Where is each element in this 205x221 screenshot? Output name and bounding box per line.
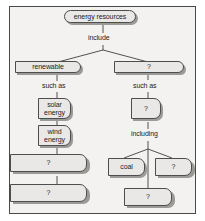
connector-label-such-as-left: such as	[42, 82, 65, 89]
line-including-to-rightq2	[148, 149, 172, 158]
node-label: ?	[146, 193, 150, 200]
node-label: energy resources	[74, 13, 126, 20]
node-label-line2: energy	[44, 136, 65, 143]
connector-label-including: including	[131, 130, 158, 137]
node-coal[interactable]: coal	[108, 158, 145, 176]
line-including-to-coal	[124, 149, 148, 158]
node-right-branch-unknown[interactable]: ?	[114, 61, 184, 73]
node-label-line1: wind	[48, 128, 62, 135]
connector-label-such-as-right: such as	[133, 82, 156, 89]
node-renewable[interactable]: renewable	[15, 61, 81, 73]
node-label: coal	[120, 163, 132, 170]
node-label: ?	[47, 189, 51, 196]
node-label: renewable	[32, 63, 63, 70]
node-right-unknown-mid[interactable]: ?	[131, 98, 161, 119]
node-wind-energy[interactable]: wind energy	[38, 125, 71, 146]
connector-label-include: include	[88, 34, 109, 41]
node-label: ?	[47, 159, 51, 166]
node-energy-resources[interactable]: energy resources	[64, 10, 136, 23]
diagram-canvas: energy resources include renewable ? suc…	[0, 0, 205, 221]
node-right-unknown-side[interactable]: ?	[155, 158, 192, 176]
node-label: ?	[147, 63, 151, 70]
node-label-line1: solar	[47, 101, 62, 108]
node-right-unknown-bottom[interactable]: ?	[124, 188, 172, 206]
node-label: ?	[172, 163, 176, 170]
node-left-unknown-1[interactable]: ?	[10, 154, 87, 172]
node-label-line2: energy	[44, 109, 65, 116]
node-solar-energy[interactable]: solar energy	[38, 98, 71, 119]
node-left-unknown-2[interactable]: ?	[10, 184, 87, 202]
node-label: ?	[144, 105, 148, 112]
